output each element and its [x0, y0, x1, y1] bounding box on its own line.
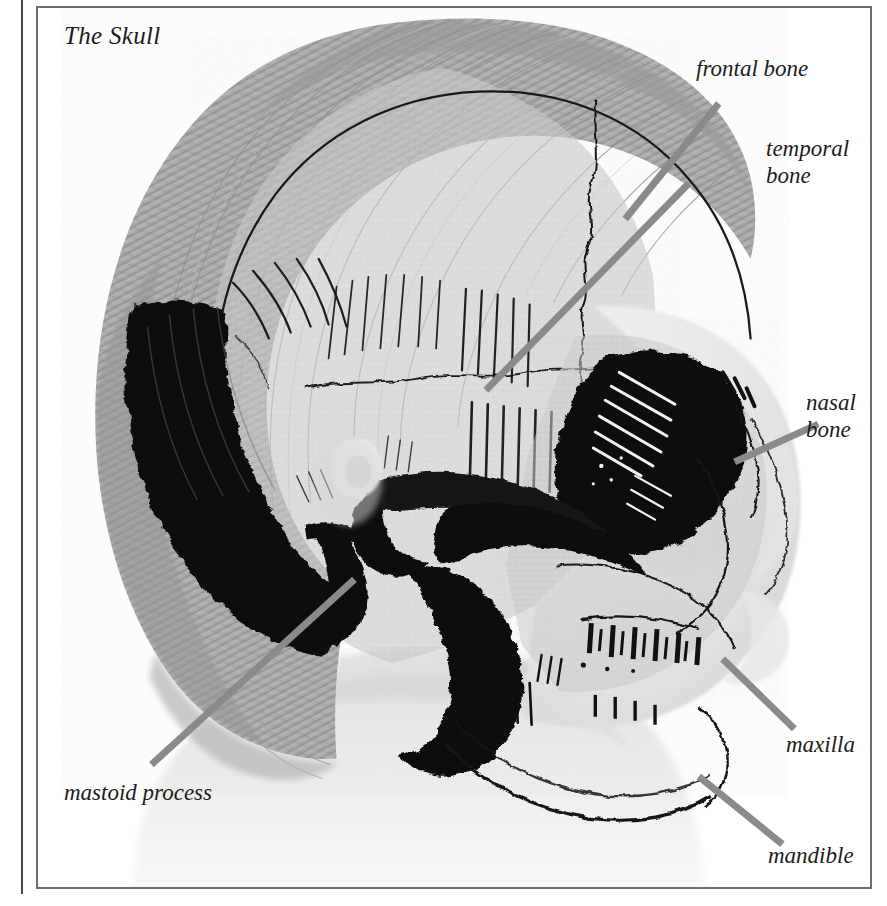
- illustration-frame: The Skull frontal bone temporal bone nas…: [36, 6, 872, 889]
- label-mandible: mandible: [768, 843, 854, 870]
- skull-illustration: [38, 8, 870, 887]
- page-outer-rule: [21, 0, 23, 894]
- page-title: The Skull: [64, 22, 160, 50]
- label-temporal-bone: temporal bone: [766, 136, 849, 190]
- label-nasal-bone: nasal bone: [806, 390, 856, 444]
- skull-anatomy-plate: The Skull frontal bone temporal bone nas…: [0, 0, 887, 906]
- label-mastoid-process: mastoid process: [64, 780, 212, 807]
- label-maxilla: maxilla: [786, 732, 855, 759]
- ear-soft: [315, 438, 383, 526]
- label-frontal-bone: frontal bone: [696, 56, 808, 83]
